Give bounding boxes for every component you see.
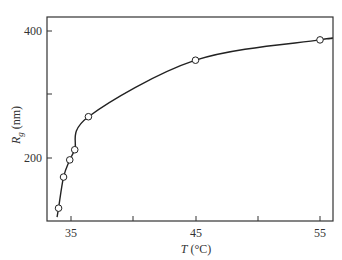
x-tick-55: 55	[314, 226, 326, 240]
fit-curve	[57, 38, 332, 217]
y-axis-sub: g	[15, 132, 25, 137]
data-point	[71, 146, 78, 153]
x-axis-var: T	[181, 242, 189, 256]
x-tick-35: 35	[65, 226, 77, 240]
data-point	[60, 174, 67, 181]
x-axis-unit: (°C)	[190, 242, 211, 256]
data-point	[55, 205, 62, 212]
y-tick-400: 400	[24, 24, 42, 38]
data-point	[192, 57, 199, 64]
series-rg	[55, 37, 332, 218]
y-axis-unit: (nm)	[9, 106, 23, 129]
data-point	[317, 37, 324, 44]
x-tick-labels: 35 45 55	[65, 226, 326, 240]
data-point	[85, 113, 92, 120]
x-axis-label: T(°C)	[181, 242, 211, 256]
x-ticks	[71, 216, 320, 221]
data-point	[66, 157, 73, 164]
x-tick-45: 45	[190, 226, 202, 240]
chart: 35 45 55 400 200 T(°C) Rg(nm)	[0, 0, 342, 260]
y-tick-labels: 400 200	[24, 24, 42, 165]
y-tick-200: 200	[24, 151, 42, 165]
y-axis-label: Rg(nm)	[9, 106, 25, 145]
y-ticks	[47, 31, 52, 158]
